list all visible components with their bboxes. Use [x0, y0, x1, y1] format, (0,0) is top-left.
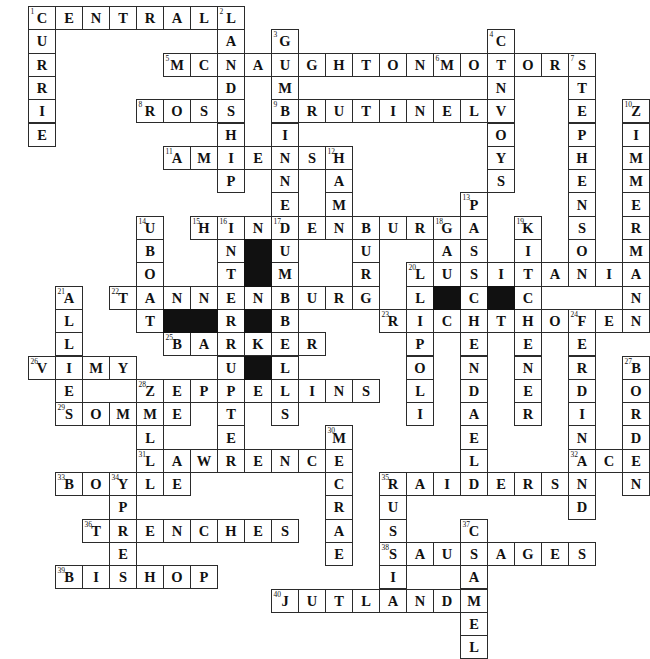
crossword-cell[interactable]: 33B	[55, 472, 83, 496]
crossword-cell[interactable]: U	[298, 589, 326, 613]
crossword-cell[interactable]: G	[298, 53, 326, 77]
crossword-cell[interactable]: I	[487, 262, 515, 286]
crossword-cell[interactable]: M	[325, 192, 353, 216]
crossword-cell[interactable]: N	[622, 309, 650, 333]
crossword-cell[interactable]: E	[217, 425, 245, 449]
crossword-cell[interactable]: K	[244, 332, 272, 356]
crossword-cell[interactable]: N	[271, 146, 299, 170]
crossword-cell[interactable]: S	[271, 519, 299, 543]
crossword-cell[interactable]: 3G	[271, 29, 299, 53]
crossword-cell[interactable]: 2L	[217, 6, 245, 30]
crossword-cell[interactable]: U	[271, 239, 299, 263]
crossword-cell[interactable]: L	[136, 472, 164, 496]
crossword-cell[interactable]: H	[325, 53, 353, 77]
crossword-cell[interactable]: E	[163, 472, 191, 496]
crossword-cell[interactable]: W	[190, 449, 218, 473]
crossword-cell[interactable]: R	[406, 216, 434, 240]
crossword-cell[interactable]: D	[568, 495, 596, 519]
crossword-cell[interactable]: I	[55, 356, 83, 380]
crossword-cell[interactable]: B	[271, 309, 299, 333]
crossword-cell[interactable]: E	[325, 542, 353, 566]
crossword-cell[interactable]: L	[460, 449, 488, 473]
crossword-cell[interactable]: R	[622, 216, 650, 240]
crossword-cell[interactable]: U	[325, 99, 353, 123]
crossword-cell[interactable]: A	[487, 542, 515, 566]
crossword-cell[interactable]: R	[298, 99, 326, 123]
crossword-cell[interactable]: O	[541, 309, 569, 333]
crossword-cell[interactable]: R	[28, 76, 56, 100]
crossword-cell[interactable]: R	[352, 262, 380, 286]
crossword-cell[interactable]: E	[487, 472, 515, 496]
crossword-cell[interactable]: M	[136, 402, 164, 426]
crossword-cell[interactable]: N	[217, 53, 245, 77]
crossword-cell[interactable]: O	[163, 565, 191, 589]
crossword-cell[interactable]: O	[406, 356, 434, 380]
crossword-cell[interactable]: 6M	[433, 53, 461, 77]
crossword-cell[interactable]: N	[190, 286, 218, 310]
crossword-cell[interactable]: R	[325, 286, 353, 310]
crossword-cell[interactable]: T	[352, 99, 380, 123]
crossword-cell[interactable]: 39B	[55, 565, 83, 589]
crossword-cell[interactable]: P	[568, 123, 596, 147]
crossword-cell[interactable]: 15H	[190, 216, 218, 240]
crossword-cell[interactable]: E	[55, 379, 83, 403]
crossword-cell[interactable]: N	[244, 286, 272, 310]
crossword-cell[interactable]: G	[352, 286, 380, 310]
crossword-cell[interactable]: R	[109, 519, 137, 543]
crossword-cell[interactable]: E	[541, 542, 569, 566]
crossword-cell[interactable]: U	[433, 262, 461, 286]
crossword-cell[interactable]: L	[406, 286, 434, 310]
crossword-cell[interactable]: R	[514, 402, 542, 426]
crossword-cell[interactable]: E	[109, 542, 137, 566]
crossword-cell[interactable]: O	[568, 239, 596, 263]
crossword-cell[interactable]: U	[379, 216, 407, 240]
crossword-cell[interactable]: A	[406, 542, 434, 566]
crossword-cell[interactable]: 18G	[433, 216, 461, 240]
crossword-cell[interactable]: M	[109, 402, 137, 426]
crossword-cell[interactable]: R	[541, 53, 569, 77]
crossword-cell[interactable]: T	[487, 53, 515, 77]
crossword-cell[interactable]: L	[406, 379, 434, 403]
crossword-cell[interactable]: L	[352, 589, 380, 613]
crossword-cell[interactable]: N	[568, 472, 596, 496]
crossword-cell[interactable]: 21A	[55, 286, 83, 310]
crossword-cell[interactable]: I	[28, 99, 56, 123]
crossword-cell[interactable]: E	[244, 146, 272, 170]
crossword-cell[interactable]: N	[271, 449, 299, 473]
crossword-cell[interactable]: E	[514, 379, 542, 403]
crossword-cell[interactable]: H	[514, 309, 542, 333]
crossword-cell[interactable]: H	[136, 565, 164, 589]
crossword-cell[interactable]: T	[325, 589, 353, 613]
crossword-cell[interactable]: N	[271, 169, 299, 193]
crossword-cell[interactable]: S	[460, 262, 488, 286]
crossword-cell[interactable]: A	[325, 519, 353, 543]
crossword-cell[interactable]: L	[460, 99, 488, 123]
crossword-cell[interactable]: E	[271, 332, 299, 356]
crossword-cell[interactable]: I	[379, 99, 407, 123]
crossword-cell[interactable]: N	[406, 589, 434, 613]
crossword-cell[interactable]: 4C	[487, 29, 515, 53]
crossword-cell[interactable]: P	[190, 565, 218, 589]
crossword-cell[interactable]: T	[568, 76, 596, 100]
crossword-cell[interactable]: 11A	[163, 146, 191, 170]
crossword-cell[interactable]: 16I	[217, 216, 245, 240]
crossword-cell[interactable]: I	[568, 402, 596, 426]
crossword-cell[interactable]: O	[136, 262, 164, 286]
crossword-cell[interactable]: R	[325, 495, 353, 519]
crossword-cell[interactable]: T	[136, 309, 164, 333]
crossword-cell[interactable]: N	[244, 216, 272, 240]
crossword-cell[interactable]: N	[163, 286, 191, 310]
crossword-cell[interactable]: M	[190, 146, 218, 170]
crossword-cell[interactable]: 13P	[460, 192, 488, 216]
crossword-cell[interactable]: S	[109, 565, 137, 589]
crossword-cell[interactable]: N	[568, 192, 596, 216]
crossword-cell[interactable]: 29S	[55, 402, 83, 426]
crossword-cell[interactable]: 25B	[163, 332, 191, 356]
crossword-cell[interactable]: A	[163, 449, 191, 473]
crossword-cell[interactable]: 12H	[325, 146, 353, 170]
crossword-cell[interactable]: S	[541, 472, 569, 496]
crossword-cell[interactable]: E	[622, 449, 650, 473]
crossword-cell[interactable]: R	[136, 6, 164, 30]
crossword-cell[interactable]: I	[595, 262, 623, 286]
crossword-cell[interactable]: 7S	[568, 53, 596, 77]
